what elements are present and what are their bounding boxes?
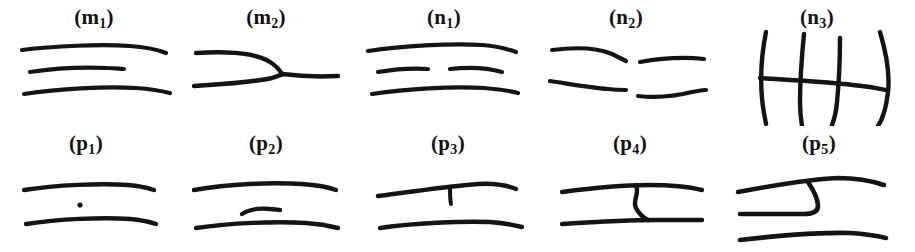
panel-drawing-n1 xyxy=(358,26,530,126)
stroke-s-bridge xyxy=(635,185,648,220)
stroke-middle-left-segment xyxy=(378,69,428,72)
stroke-bottom-line xyxy=(26,218,156,224)
panel-drawing-m1 xyxy=(8,26,180,126)
stroke-middle-right-segment xyxy=(450,68,502,72)
panel-drawing-m2 xyxy=(180,26,352,126)
panel-drawing-p3 xyxy=(362,152,534,252)
panel-n2: (n2) xyxy=(540,0,712,126)
stroke-middle-short-line xyxy=(30,68,124,72)
stroke-lower-branch xyxy=(194,74,283,86)
stroke-lower-left-segment xyxy=(550,81,626,90)
stroke-upper-branch xyxy=(196,52,282,74)
panel-drawing-p5 xyxy=(726,152,912,252)
stroke-top-line xyxy=(368,44,516,52)
panel-drawing-n2 xyxy=(540,26,712,126)
stroke-bottom-line xyxy=(196,222,338,228)
stroke-middle-short-dash xyxy=(242,209,280,214)
line-pattern-figure: (m1)(m2)(n1)(n2)(n3)(p1)(p2)(p3)(p4)(p5) xyxy=(0,0,915,252)
stroke-horizontal-crossbar xyxy=(760,78,886,90)
stroke-bottom-line xyxy=(24,87,170,94)
panel-m1: (m1) xyxy=(8,0,180,126)
stroke-bottom-line xyxy=(372,87,518,94)
stroke-top-line xyxy=(378,184,516,196)
stroke-top-line xyxy=(194,183,336,190)
panel-p4: (p4) xyxy=(544,126,716,252)
panel-n1: (n1) xyxy=(358,0,530,126)
stroke-vertical-spur xyxy=(450,187,451,204)
panel-m2: (m2) xyxy=(180,0,352,126)
panel-drawing-p2 xyxy=(180,152,352,252)
panel-p5: (p5) xyxy=(726,126,912,252)
panel-n3: (n3) xyxy=(722,0,912,126)
panel-drawing-p4 xyxy=(544,152,716,252)
panel-p3: (p3) xyxy=(362,126,534,252)
stroke-vertical-line-4 xyxy=(878,32,889,126)
stroke-merged-trunk xyxy=(282,74,338,76)
mark-isolated-dot xyxy=(77,202,82,207)
stroke-upper-left-segment xyxy=(552,48,626,61)
stroke-upper-right-segment xyxy=(640,58,704,62)
stroke-lower-right-segment xyxy=(638,90,706,97)
panel-drawing-n3 xyxy=(722,26,912,126)
panel-p1: (p1) xyxy=(0,126,172,252)
stroke-top-line xyxy=(24,184,154,190)
panel-drawing-p1 xyxy=(0,152,172,252)
panel-p2: (p2) xyxy=(180,126,352,252)
stroke-bottom-line xyxy=(380,222,522,228)
stroke-bottom-line xyxy=(740,233,886,240)
stroke-bottom-line xyxy=(562,220,702,224)
stroke-top-line xyxy=(562,185,702,192)
stroke-top-line xyxy=(22,45,166,53)
